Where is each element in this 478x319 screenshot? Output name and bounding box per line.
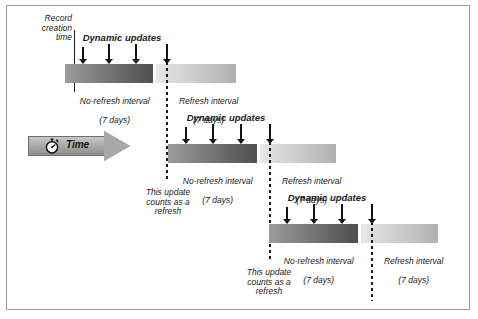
no-refresh-duration-text-row-3: (7 days): [303, 275, 334, 285]
no-refresh-interval-text-row-1: No-refresh interval: [80, 96, 150, 106]
update-arrow-row-3-3: [337, 204, 346, 224]
time-arrow-head: [104, 131, 130, 161]
refresh-bar-row-2: [260, 144, 336, 163]
refresh-interval-text-row-3: Refresh interval: [384, 256, 444, 266]
counts-as-refresh-note-1: This update counts as a refresh: [137, 188, 199, 217]
stopwatch-icon: [44, 138, 60, 154]
refresh-bar-row-1: [156, 64, 236, 83]
no-refresh-bar-row-1: [65, 64, 153, 83]
refresh-caption-row-3: Refresh interval (7 days): [373, 247, 445, 295]
update-arrow-row-1-3: [131, 44, 140, 64]
update-arrow-row-2-3: [236, 124, 245, 144]
refresh-interval-text-row-1: Refresh interval: [179, 96, 239, 106]
no-refresh-caption-row-1: No-refresh interval (7 days): [69, 87, 151, 135]
refresh-caption-row-1: Refresh interval (7 days): [168, 87, 240, 135]
no-refresh-interval-text-row-3: No-refresh interval: [284, 256, 354, 266]
update-arrow-row-2-2: [208, 124, 217, 144]
counts-as-refresh-note-2: This update counts as a refresh: [238, 268, 300, 297]
refresh-duration-text-row-3: (7 days): [398, 275, 429, 285]
record-creation-time-label: Record creation time: [20, 14, 72, 43]
dynamic-updates-label-row-1: Dynamic updates: [78, 33, 166, 44]
update-arrow-row-2-1: [181, 127, 190, 144]
dynamic-updates-label-row-3: Dynamic updates: [283, 193, 371, 204]
no-refresh-interval-text-row-2: No-refresh interval: [183, 176, 253, 186]
update-arrow-row-3-2: [309, 204, 318, 224]
no-refresh-bar-row-2: [168, 144, 257, 163]
time-axis-arrow: Time: [28, 131, 138, 161]
update-arrow-row-1-1: [78, 47, 87, 64]
no-refresh-duration-text-row-1: (7 days): [99, 115, 130, 125]
no-refresh-duration-text-row-2: (7 days): [202, 195, 233, 205]
refresh-interval-text-row-2: Refresh interval: [282, 176, 342, 186]
update-arrow-row-3-1: [282, 207, 291, 224]
time-axis-label: Time: [66, 139, 89, 150]
no-refresh-bar-row-3: [269, 224, 358, 243]
diagram-canvas: Time Record creation time Dynamic update…: [0, 0, 478, 319]
dynamic-updates-label-row-2: Dynamic updates: [182, 113, 270, 124]
update-arrow-row-1-2: [104, 44, 113, 64]
